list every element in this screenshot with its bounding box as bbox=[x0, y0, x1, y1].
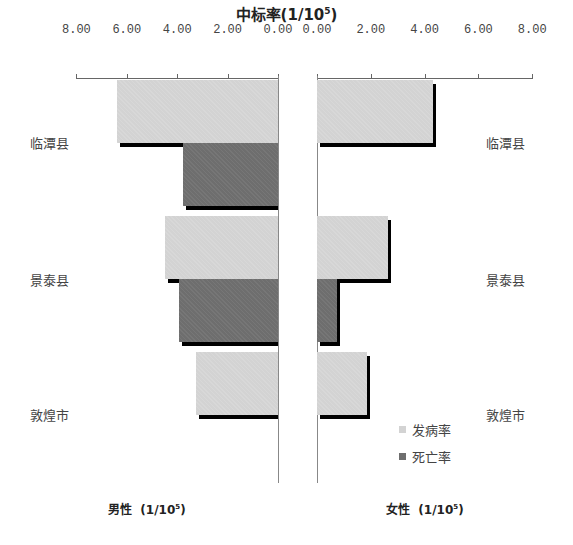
legend-label-incidence: 发病率 bbox=[412, 420, 451, 439]
male-incidence-bar bbox=[117, 80, 278, 143]
left-x-axis bbox=[77, 78, 279, 79]
legend-swatch-incidence bbox=[399, 426, 406, 433]
legend-incidence: 发病率 bbox=[399, 420, 451, 439]
tick-label-right: 8.00 bbox=[518, 23, 547, 37]
title-unit: (1/10 bbox=[281, 6, 325, 24]
left-zero-axis bbox=[278, 76, 279, 483]
tick-label-left: 0.00 bbox=[264, 23, 293, 37]
female-incidence-bar bbox=[317, 352, 367, 415]
tick-label-right: 4.00 bbox=[410, 23, 439, 37]
legend-mortality: 死亡率 bbox=[399, 447, 451, 466]
category-label-right: 临潭县 bbox=[486, 133, 525, 152]
tick-label-left: 8.00 bbox=[62, 23, 91, 37]
male-mortality-bar bbox=[179, 279, 278, 342]
male-unit-close: ) bbox=[180, 503, 185, 517]
female-axis-label: 女性 (1/105) bbox=[386, 500, 464, 517]
male-unit: (1/10 bbox=[140, 503, 175, 517]
tick-label-left: 6.00 bbox=[112, 23, 141, 37]
female-mortality-bar bbox=[317, 279, 337, 342]
tick-label-right: 2.00 bbox=[356, 23, 385, 37]
female-label: 女性 bbox=[386, 503, 410, 517]
title-text: 中标率 bbox=[236, 6, 281, 24]
female-unit-close: ) bbox=[458, 503, 463, 517]
category-label-left: 敦煌市 bbox=[30, 405, 69, 424]
chart-title: 中标率(1/105) bbox=[0, 3, 573, 24]
tick-label-left: 2.00 bbox=[213, 23, 242, 37]
tick-mark-right bbox=[532, 74, 533, 79]
right-x-axis bbox=[317, 78, 532, 79]
female-incidence-bar bbox=[317, 216, 388, 279]
category-label-left: 临潭县 bbox=[30, 133, 69, 152]
category-label-left: 景泰县 bbox=[30, 270, 69, 289]
category-label-right: 景泰县 bbox=[486, 270, 525, 289]
male-label: 男性 bbox=[108, 503, 132, 517]
tick-label-right: 0.00 bbox=[303, 23, 332, 37]
male-incidence-bar bbox=[196, 352, 278, 415]
legend-label-mortality: 死亡率 bbox=[412, 447, 451, 466]
title-unit-close: ) bbox=[331, 6, 338, 24]
male-axis-label: 男性 (1/105) bbox=[108, 500, 186, 517]
female-unit: (1/10 bbox=[418, 503, 453, 517]
tick-label-right: 6.00 bbox=[464, 23, 493, 37]
male-incidence-bar bbox=[165, 216, 278, 279]
category-label-right: 敦煌市 bbox=[486, 405, 525, 424]
female-incidence-bar bbox=[317, 80, 433, 143]
legend-swatch-mortality bbox=[399, 453, 406, 460]
tick-label-left: 4.00 bbox=[163, 23, 192, 37]
male-mortality-bar bbox=[183, 143, 278, 206]
